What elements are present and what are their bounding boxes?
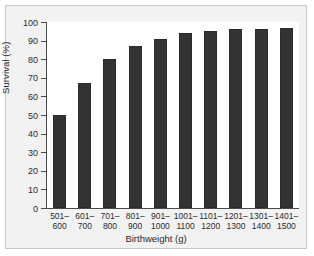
y-tick: 70 — [41, 78, 46, 79]
bar-slot — [274, 22, 299, 208]
y-tick-label: 50 — [28, 111, 38, 120]
y-tick: 80 — [41, 59, 46, 60]
y-tick: 60 — [41, 96, 46, 97]
x-tick-label: 601–700 — [72, 211, 97, 231]
bar-slot — [249, 22, 274, 208]
bar[interactable] — [78, 83, 91, 208]
y-tick-label: 30 — [28, 148, 38, 157]
y-tick: 90 — [41, 41, 46, 42]
y-tick-label: 10 — [28, 185, 38, 194]
bar-slot — [123, 22, 148, 208]
y-tick: 40 — [41, 134, 46, 135]
x-tick-label: 501–600 — [47, 211, 72, 231]
y-tick: 20 — [41, 171, 46, 172]
y-tick: 30 — [41, 152, 46, 153]
bar[interactable] — [280, 28, 293, 208]
y-tick-label: 40 — [28, 130, 38, 139]
y-tick-label: 60 — [28, 92, 38, 101]
bar[interactable] — [129, 46, 142, 208]
y-axis-title: Survival (%) — [0, 42, 11, 94]
bar[interactable] — [53, 115, 66, 208]
x-axis-line — [46, 208, 299, 209]
bar[interactable] — [103, 59, 116, 208]
bar-slot — [198, 22, 223, 208]
figure-panel: 0102030405060708090100 Survival (%) 501–… — [5, 5, 307, 249]
x-axis-title: Birthweight (g) — [6, 233, 306, 244]
y-tick-label: 70 — [28, 74, 38, 83]
bar-slot — [47, 22, 72, 208]
bar-slot — [148, 22, 173, 208]
x-tick-label: 801–900 — [123, 211, 148, 231]
y-tick-label: 20 — [28, 167, 38, 176]
y-tick: 0 — [41, 208, 46, 209]
x-tick-label: 1201–1300 — [223, 211, 248, 231]
y-tick: 50 — [41, 115, 46, 116]
x-tick-label: 1401–1500 — [274, 211, 299, 231]
bar-slot — [97, 22, 122, 208]
bar[interactable] — [204, 31, 217, 208]
y-tick-label: 90 — [28, 37, 38, 46]
y-tick: 10 — [41, 189, 46, 190]
bar-slot — [223, 22, 248, 208]
bar[interactable] — [179, 33, 192, 208]
y-tick-label: 80 — [28, 55, 38, 64]
y-tick-label: 100 — [23, 18, 38, 27]
x-tick-label: 701–800 — [97, 211, 122, 231]
x-tick-label: 1101–1200 — [198, 211, 223, 231]
x-tick-label: 901–1000 — [148, 211, 173, 231]
bar-slot — [72, 22, 97, 208]
bar[interactable] — [229, 29, 242, 208]
bar[interactable] — [255, 29, 268, 208]
y-tick: 100 — [41, 22, 46, 23]
x-tick-label: 1301–1400 — [249, 211, 274, 231]
bar-slot — [173, 22, 198, 208]
x-tick-label: 1001–1100 — [173, 211, 198, 231]
y-tick-label: 0 — [33, 204, 38, 213]
bar[interactable] — [154, 39, 167, 208]
